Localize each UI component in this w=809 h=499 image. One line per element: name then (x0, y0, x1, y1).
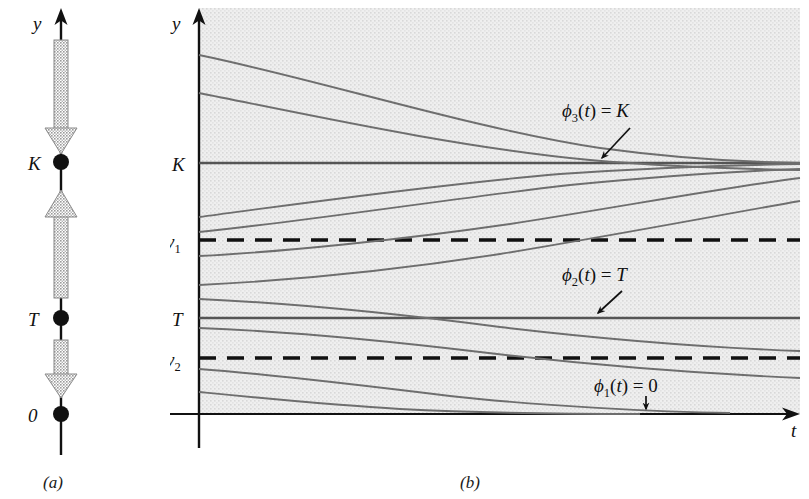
equilibrium-label-k: K (27, 153, 42, 174)
y-axis-label: y (170, 13, 181, 34)
y-tick-label-k: K (171, 154, 186, 175)
y-tick-label-y1: y1 (170, 231, 181, 256)
flow-arrow-t-to-k (45, 190, 77, 298)
equilibrium-dot-k (53, 154, 69, 170)
flow-arrow-above-k (45, 40, 77, 154)
equilibrium-dot-t (53, 310, 69, 326)
y-tick-label-y2: y2 (170, 349, 181, 374)
equilibrium-label-t: T (28, 309, 40, 330)
figure-container: y K T 0 (0, 0, 809, 499)
equilibrium-label-zero: 0 (28, 405, 38, 426)
panel-a-phase-line: y K T 0 (0, 0, 170, 499)
solution-curves-svg: y t K y1 T y2 (170, 0, 809, 499)
caption-panel-b: (b) (460, 473, 480, 493)
plot-shaded-background (199, 8, 800, 414)
t-axis-label: t (791, 420, 797, 441)
flow-arrow-t-to-zero (45, 340, 77, 398)
y-tick-label-t: T (172, 309, 184, 330)
caption-panel-a: (a) (43, 473, 63, 493)
panel-b-solution-curves: y t K y1 T y2 (170, 0, 809, 499)
phase-line-svg: y K T 0 (0, 0, 170, 499)
panel-a-y-label: y (31, 13, 42, 34)
equilibrium-dot-zero (53, 406, 69, 422)
